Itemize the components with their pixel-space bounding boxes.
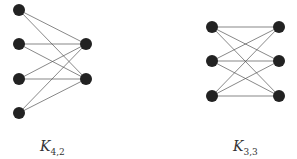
graph-k3-3 xyxy=(206,21,285,102)
edge xyxy=(19,10,86,44)
vertex xyxy=(13,73,25,85)
vertex xyxy=(13,38,25,50)
vertex xyxy=(13,4,25,16)
label-k33: K3,3 xyxy=(233,138,258,157)
vertex xyxy=(206,55,218,67)
edge xyxy=(19,44,86,113)
bipartite-graphs-canvas xyxy=(0,0,297,159)
edge xyxy=(19,10,86,79)
edge xyxy=(19,79,86,113)
vertex xyxy=(206,21,218,33)
vertex xyxy=(13,107,25,119)
graph-k4-2 xyxy=(13,4,92,119)
vertex xyxy=(80,73,92,85)
vertex xyxy=(206,90,218,102)
vertex xyxy=(273,90,285,102)
vertex xyxy=(80,38,92,50)
vertex xyxy=(273,21,285,33)
vertex xyxy=(273,55,285,67)
label-k42: K4,2 xyxy=(40,138,65,157)
